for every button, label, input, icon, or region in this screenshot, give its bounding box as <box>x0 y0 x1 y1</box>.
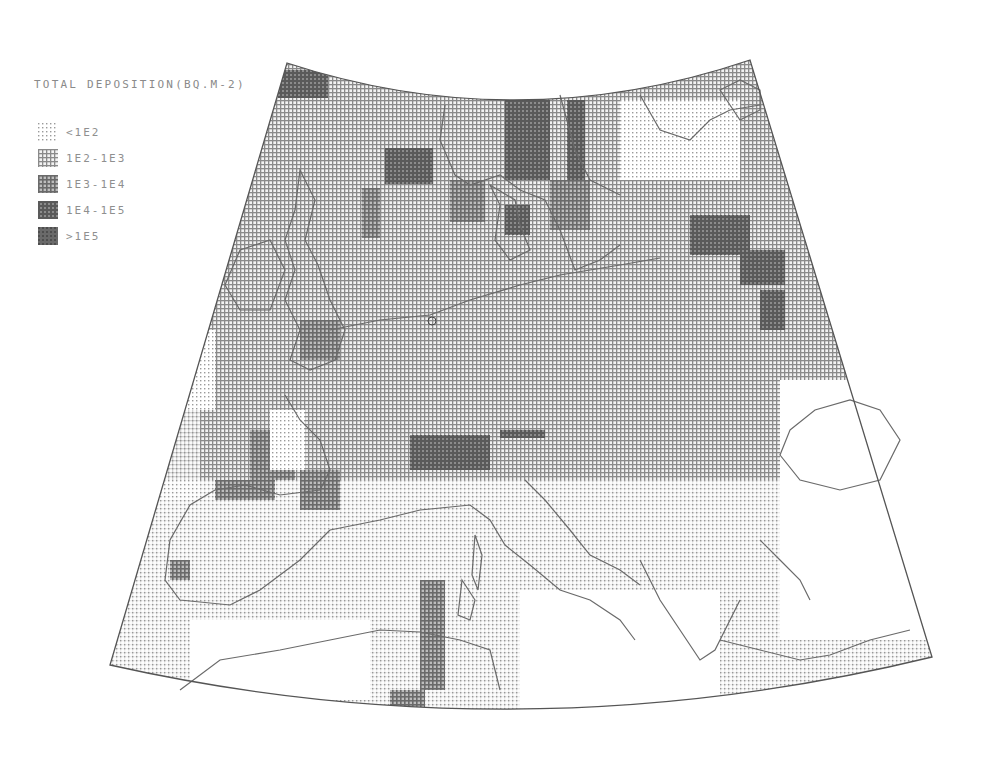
deposition-cell <box>215 480 275 500</box>
map-grid <box>0 0 983 758</box>
deposition-cell <box>362 188 380 238</box>
deposition-cell <box>567 100 585 190</box>
deposition-cell <box>190 620 370 700</box>
deposition-cell <box>330 380 710 430</box>
deposition-cell <box>690 215 750 255</box>
deposition-cell <box>520 590 720 710</box>
deposition-cell <box>410 435 490 470</box>
deposition-cell <box>300 320 340 360</box>
deposition-cell <box>385 148 433 184</box>
deposition-cell <box>780 380 930 640</box>
deposition-cell <box>278 70 328 98</box>
deposition-cell <box>170 560 190 580</box>
deposition-cell <box>620 100 740 180</box>
deposition-cell <box>450 180 485 222</box>
deposition-cell <box>740 250 785 285</box>
deposition-map <box>0 0 983 758</box>
deposition-cell <box>505 100 550 180</box>
deposition-cell <box>760 290 785 330</box>
